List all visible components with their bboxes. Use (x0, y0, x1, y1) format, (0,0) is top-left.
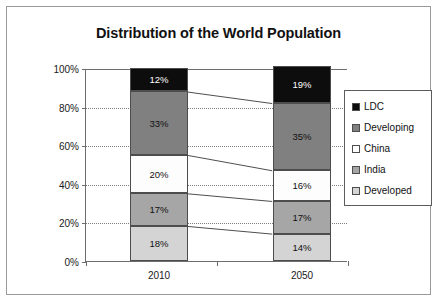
legend-swatch-icon (352, 103, 360, 111)
series-connector-lines (86, 69, 347, 261)
x-axis-tick (86, 261, 87, 266)
y-axis-label: 0% (65, 257, 79, 268)
legend-swatch-icon (352, 145, 360, 153)
legend-label: China (364, 143, 390, 154)
legend-swatch-icon (352, 166, 360, 174)
legend-item-ldc[interactable]: LDC (352, 96, 431, 117)
y-axis-label: 40% (59, 179, 79, 190)
legend-item-developed[interactable]: Developed (352, 180, 431, 201)
x-axis-label-2050: 2050 (291, 270, 313, 281)
y-axis-label: 60% (59, 141, 79, 152)
connector-line (188, 92, 273, 104)
x-axis-label-2010: 2010 (148, 270, 170, 281)
legend-swatch-icon (352, 187, 360, 195)
legend-swatch-icon (352, 124, 360, 132)
connector-line (188, 155, 273, 170)
chart-screenshot: Distribution of the World Population 0%2… (0, 0, 439, 303)
chart-title: Distribution of the World Population (7, 25, 430, 41)
x-axis-tick (217, 261, 218, 266)
connector-line (188, 226, 273, 234)
legend-label: Developing (364, 122, 414, 133)
chart-legend: LDCDevelopingChinaIndiaDeveloped (344, 90, 432, 206)
x-axis-tick (348, 261, 349, 266)
legend-label: Developed (364, 185, 412, 196)
plot-area: 0%20%40%60%80%100% 18%17%20%33%12%14%17%… (85, 69, 347, 262)
legend-item-china[interactable]: China (352, 138, 431, 159)
legend-label: LDC (364, 101, 384, 112)
legend-label: India (364, 164, 386, 175)
y-axis-label: 100% (53, 64, 79, 75)
connector-line (188, 194, 273, 202)
legend-item-developing[interactable]: Developing (352, 117, 431, 138)
y-axis-label: 20% (59, 218, 79, 229)
y-axis-label: 80% (59, 102, 79, 113)
legend-item-india[interactable]: India (352, 159, 431, 180)
chart-frame: Distribution of the World Population 0%2… (6, 6, 431, 295)
